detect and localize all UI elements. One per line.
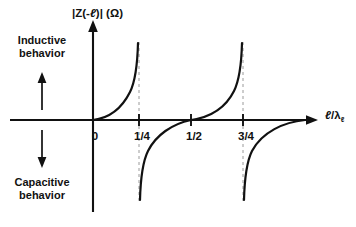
figure-svg: |Z(-ℓ)| (Ω) ℓ/λℓ 0 1/4 1/2 3/4 Inductive… [0, 0, 356, 227]
tick-label-half: 1/2 [186, 130, 202, 142]
y-axis-title: |Z(-ℓ)| (Ω) [72, 7, 123, 19]
curve-branch-1 [93, 43, 138, 120]
arrow-up-icon [38, 72, 47, 83]
x-axis-arrowhead-icon [306, 115, 318, 125]
y-axis-arrowhead-icon [88, 20, 98, 32]
tick-label-zero: 0 [92, 130, 98, 142]
curve-branch-3 [191, 43, 242, 120]
y-axis-title-prefix: |Z(- [72, 7, 90, 19]
y-axis-title-suffix: )| (Ω) [96, 7, 123, 19]
inductive-behavior-label-line2: behavior [19, 47, 66, 59]
x-axis-title: ℓ/λℓ [325, 109, 345, 124]
impedance-magnitude-figure: |Z(-ℓ)| (Ω) ℓ/λℓ 0 1/4 1/2 3/4 Inductive… [0, 0, 356, 227]
x-axis-title-subscript: ℓ [341, 115, 345, 124]
inductive-behavior-label-line1: Inductive [18, 34, 66, 46]
capacitive-behavior-label-line1: Capacitive [14, 176, 69, 188]
arrow-down-icon [38, 157, 47, 168]
tick-label-quarter: 1/4 [134, 130, 151, 142]
tick-label-three-quarter: 3/4 [238, 130, 255, 142]
capacitive-behavior-label-line2: behavior [19, 189, 66, 201]
